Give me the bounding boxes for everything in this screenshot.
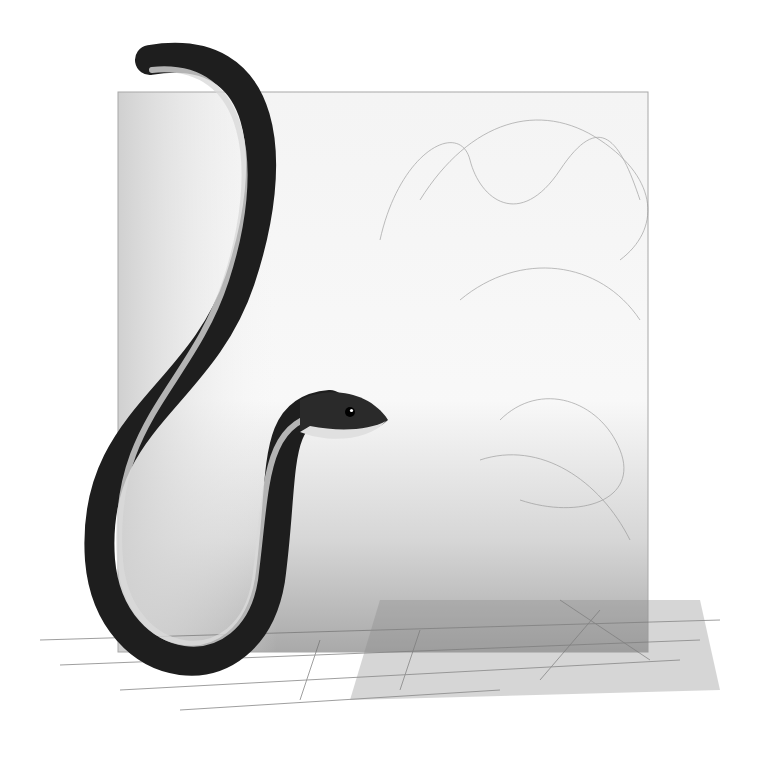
snake-eye (345, 407, 355, 417)
sketch-illustration (0, 0, 760, 762)
snake-drawing: Pencil/charcoal drawing of a dark snake … (0, 0, 760, 762)
